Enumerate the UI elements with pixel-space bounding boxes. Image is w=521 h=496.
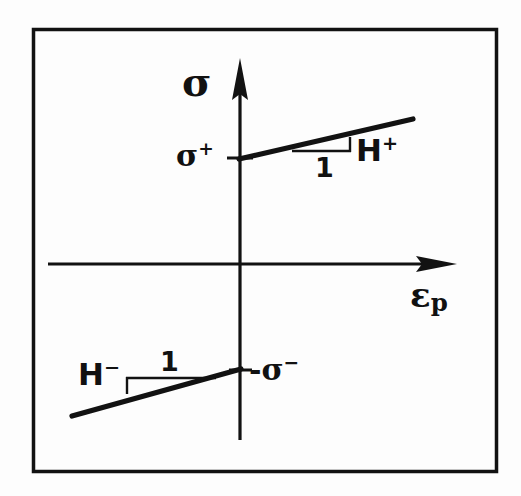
- yield-stress-negative-superscript: −: [284, 352, 300, 373]
- figure-container: σ σ+ -σ− εp H+ H− 1 1: [0, 0, 521, 496]
- yield-stress-positive-base: σ: [176, 138, 198, 173]
- sigma-axis-arrowhead: [232, 58, 248, 100]
- hardening-modulus-positive-base: H: [356, 132, 382, 168]
- hardening-modulus-positive-label: H+: [356, 134, 398, 166]
- yield-stress-positive-label: σ+: [176, 140, 214, 171]
- yield-stress-negative-prefix: -: [249, 352, 261, 387]
- hardening-modulus-negative-base: H: [78, 356, 104, 392]
- epsilon-p-axis-arrowhead: [416, 256, 457, 272]
- epsilon-p-base: ε: [410, 275, 431, 315]
- sigma-axis-label: σ: [182, 62, 212, 102]
- unit-run-label-upper: 1: [315, 154, 334, 181]
- figure-canvas: [0, 0, 521, 496]
- unit-run-label-lower: 1: [160, 348, 179, 375]
- hardening-modulus-negative-label: H−: [78, 358, 120, 390]
- epsilon-p-axis-label: εp: [410, 278, 448, 316]
- epsilon-p-subscript: p: [431, 288, 448, 317]
- yield-stress-positive-superscript: +: [198, 138, 214, 159]
- hardening-modulus-positive-superscript: +: [382, 132, 398, 155]
- hardening-modulus-negative-superscript: −: [104, 356, 120, 379]
- yield-stress-negative-label: -σ−: [249, 354, 299, 385]
- yield-stress-negative-base: σ: [261, 352, 283, 387]
